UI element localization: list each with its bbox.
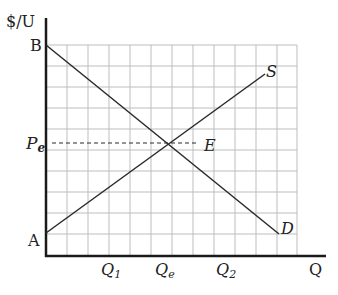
q2-subscript: 2 xyxy=(228,268,236,281)
pe-label: Pe xyxy=(25,133,45,155)
q2-letter: Q xyxy=(216,260,229,279)
demand-curve xyxy=(46,45,279,234)
q1-tick-label: Q1 xyxy=(101,260,121,281)
point-a-label: A xyxy=(27,231,40,250)
demand-d-label: D xyxy=(280,219,294,238)
y-axis-label: $/U xyxy=(6,12,35,31)
q1-letter: Q xyxy=(101,260,114,279)
grid xyxy=(46,45,297,256)
pe-subscript: e xyxy=(37,141,45,155)
supply-demand-diagram: $/U B A Pe E S D Q1 Qe Q2 Q xyxy=(0,0,338,295)
x-axis-label: Q xyxy=(309,260,322,279)
supply-curve xyxy=(46,74,265,233)
point-b-label: B xyxy=(30,36,42,55)
pe-letter: P xyxy=(25,133,38,153)
qe-tick-label: Qe xyxy=(155,260,175,281)
qe-letter: Q xyxy=(155,260,168,279)
supply-s-label: S xyxy=(266,62,277,81)
q1-subscript: 1 xyxy=(114,268,121,281)
qe-subscript: e xyxy=(168,268,175,281)
equilibrium-e-label: E xyxy=(203,136,216,155)
q2-tick-label: Q2 xyxy=(216,260,236,281)
